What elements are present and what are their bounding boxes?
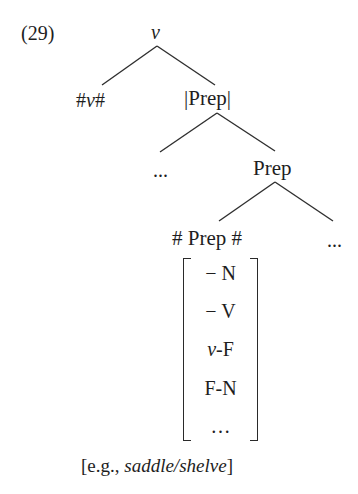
feature-row: − V [183,301,258,321]
hash-close: # [95,89,105,111]
node-bar-prep: |Prep| [184,88,231,109]
edge-inner-prep-left [219,182,275,221]
feature-row: … [183,416,258,436]
edge-root-left [102,46,157,85]
node-hash-prep-hash: # Prep # [172,228,242,249]
edge-prep-left [160,113,217,152]
feature-row: ν-F [183,339,258,359]
node-ellipsis-right: ... [327,230,342,250]
v-core: ν [207,338,216,360]
caption-close: ] [227,455,233,476]
edge-prep-right [217,113,275,151]
edge-root-right [157,46,215,85]
node-root-v: ν [151,22,160,42]
feature-row: F-N [183,378,258,398]
caption-example: saddle/shelve [124,455,226,476]
v-core: ν [86,89,95,111]
feature-matrix: − N − V ν-F F-N … [183,258,258,441]
caption-open: [e.g., [81,455,124,476]
feature-row: − N [183,263,258,283]
node-ellipsis-left: ... [153,160,168,180]
hash-open: # [76,89,86,111]
caption: [e.g., saddle/shelve] [81,456,233,475]
node-prep: Prep [253,158,292,179]
node-hash-v-hash: #ν# [76,90,105,110]
edge-inner-prep-right [275,182,333,221]
